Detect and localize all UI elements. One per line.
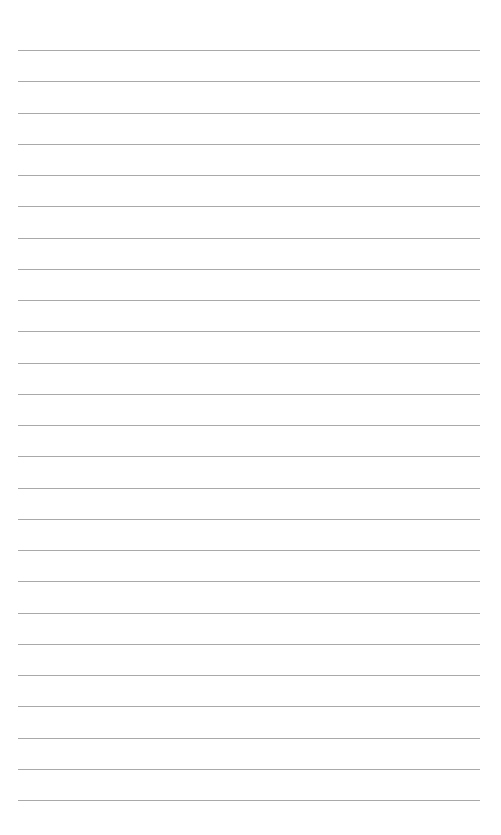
ruled-line [18, 331, 480, 332]
ruled-line [18, 175, 480, 176]
ruled-line [18, 800, 480, 801]
ruled-line [18, 706, 480, 707]
ruled-line [18, 738, 480, 739]
ruled-line [18, 769, 480, 770]
lined-paper-page [0, 0, 501, 835]
ruled-line [18, 81, 480, 82]
ruled-line [18, 581, 480, 582]
ruled-line [18, 550, 480, 551]
ruled-line [18, 675, 480, 676]
ruled-line [18, 300, 480, 301]
ruled-line [18, 613, 480, 614]
ruled-line [18, 425, 480, 426]
ruled-line [18, 238, 480, 239]
ruled-line [18, 644, 480, 645]
ruled-line [18, 519, 480, 520]
ruled-line [18, 269, 480, 270]
ruled-line [18, 456, 480, 457]
ruled-line [18, 206, 480, 207]
ruled-line [18, 113, 480, 114]
ruled-line [18, 488, 480, 489]
ruled-line [18, 394, 480, 395]
ruled-line [18, 363, 480, 364]
ruled-line [18, 144, 480, 145]
ruled-line [18, 50, 480, 51]
